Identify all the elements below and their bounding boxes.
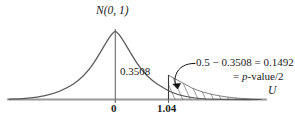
- x-tick-label-critical: 1.04: [157, 103, 176, 114]
- tail-area-annotation-line1: 0.5 − 0.3508 = 0.1492: [196, 57, 294, 68]
- central-area-label: 0.3508: [120, 66, 150, 77]
- x-axis-label: U: [268, 85, 276, 97]
- annotation-equals-prefix: =: [233, 70, 242, 82]
- x-tick-label-zero: 0: [111, 103, 117, 114]
- distribution-title-text: N(0, 1): [96, 4, 129, 16]
- annotation-value-suffix: -value/2: [247, 70, 283, 82]
- distribution-title: N(0, 1): [96, 5, 129, 17]
- tail-area-annotation-line2: = p-value/2: [233, 71, 284, 82]
- normal-distribution-figure: N(0, 1) 0.3508 0.5 − 0.3508 = 0.1492 = p…: [0, 0, 295, 126]
